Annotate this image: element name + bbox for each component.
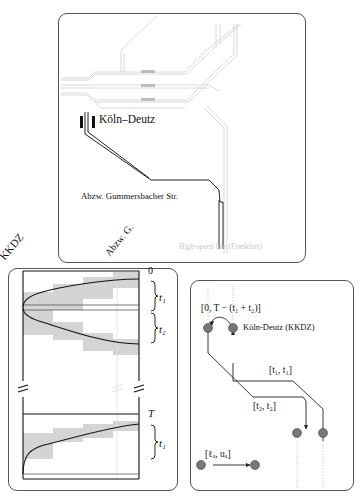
station-block-left [80, 116, 83, 128]
time-space-graphic [9, 269, 179, 492]
column-label-kkdz: KKDZ [0, 231, 26, 262]
network-nodes [197, 324, 328, 470]
interval-label-top: [0, T − (t₁ + t₂)] [201, 303, 261, 313]
time-label-T: T [148, 407, 154, 419]
network-arcs [208, 317, 323, 465]
interval-braces [151, 281, 158, 459]
highlighted-route [85, 112, 223, 249]
time-space-diagram-panel: KKDZ Abzw. G. 0 t₁ t₂ T t₁ [8, 268, 178, 491]
time-label-zero: 0 [148, 265, 153, 276]
brace-label-t1-lower: t₁ [159, 437, 166, 449]
platform-markers [141, 70, 155, 101]
interval-label-t1: [t₁, t₁] [269, 365, 292, 375]
junction-label: Abzw. Gummersbacher Str. [81, 191, 178, 201]
station-block-right [92, 116, 95, 128]
interval-label-t2: [t₂, t₂] [253, 401, 276, 411]
event-network-panel: [0, T − (t₁ + t₂)] Köln-Deutz (KKDZ) [t₁… [190, 280, 354, 491]
brace-label-t1: t₁ [159, 291, 166, 303]
track-map-panel: Köln–Deutz Abzw. Gummersbacher Str. High… [58, 13, 306, 263]
node-label-koeln-deutz: Köln-Deutz (KKDZ) [243, 322, 315, 332]
legend-interval-label: [ℓₐ, uₐ] [205, 449, 231, 459]
faded-caption: High-speed line (Frankfurt) [179, 242, 262, 251]
track-map-graphic [59, 14, 307, 264]
axis-break-marks [18, 385, 144, 392]
faded-track-network [61, 16, 241, 254]
occupancy-blocks [23, 272, 139, 459]
brace-label-t2: t₂ [159, 323, 166, 335]
station-label-koeln-deutz: Köln–Deutz [99, 113, 155, 125]
